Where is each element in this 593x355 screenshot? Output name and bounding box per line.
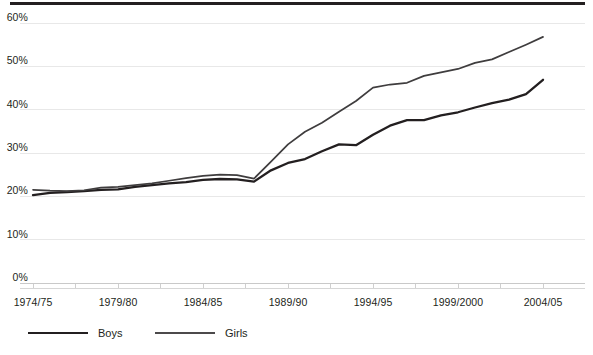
y-axis-tick-label: 0% bbox=[0, 271, 28, 283]
series-line-girls bbox=[33, 37, 543, 191]
legend-line-girls-icon bbox=[155, 332, 215, 334]
y-axis-tick-label: 40% bbox=[0, 98, 28, 110]
legend-label-boys: Boys bbox=[98, 327, 122, 339]
x-axis-tick-label: 1984/85 bbox=[163, 296, 243, 308]
legend-item-boys[interactable]: Boys bbox=[28, 322, 122, 344]
x-axis-tick-label: 2004/05 bbox=[503, 296, 583, 308]
series-line-boys bbox=[33, 80, 543, 195]
y-axis-tick-label: 10% bbox=[0, 228, 28, 240]
x-axis-tick-label: 1999/2000 bbox=[418, 296, 498, 308]
legend-item-girls[interactable]: Girls bbox=[155, 322, 248, 344]
legend-line-boys-icon bbox=[28, 332, 88, 335]
x-axis-tick-label: 1989/90 bbox=[248, 296, 328, 308]
y-axis-tick-label: 20% bbox=[0, 184, 28, 196]
y-axis-tick-label: 50% bbox=[0, 54, 28, 66]
x-axis-tick-label: 1994/95 bbox=[333, 296, 413, 308]
legend-label-girls: Girls bbox=[225, 327, 248, 339]
y-axis-tick-label: 60% bbox=[0, 11, 28, 23]
x-axis-tick-label: 1974/75 bbox=[0, 296, 73, 308]
x-axis-ticks bbox=[20, 284, 585, 288]
chart-container: 0%10%20%30%40%50%60% 1974/751979/801984/… bbox=[0, 0, 593, 355]
data-series bbox=[33, 37, 543, 195]
gridlines bbox=[20, 23, 585, 283]
y-axis-tick-label: 30% bbox=[0, 141, 28, 153]
chart-legend: Boys Girls bbox=[0, 322, 593, 344]
x-axis-tick-label: 1979/80 bbox=[78, 296, 158, 308]
